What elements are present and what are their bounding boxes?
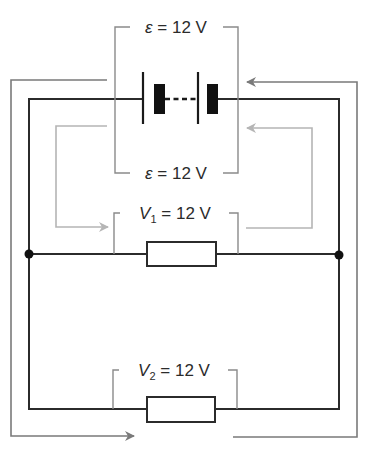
inner-path-left [56,126,108,227]
label-v2: V2 = 12 V [138,361,210,382]
junction-right [335,251,344,260]
bracket-emf-bottom [115,99,238,173]
label-emf-top: ε = 12 V [145,18,207,37]
label-v1: V1 = 12 V [139,204,211,225]
circuit-diagram: ε = 12 V ε = 12 V V1 = 12 V V2 = 12 V [0,0,370,458]
battery [143,72,218,124]
label-emf-bottom: ε = 12 V [145,164,207,183]
junction-left [25,250,34,259]
battery-cell-2-short-plate [207,84,218,114]
resistor-1 [147,242,216,266]
inner-path-right [246,128,312,228]
bracket-emf-top [115,27,238,99]
battery-cell-1-short-plate [154,84,165,114]
resistor-2 [147,397,215,422]
